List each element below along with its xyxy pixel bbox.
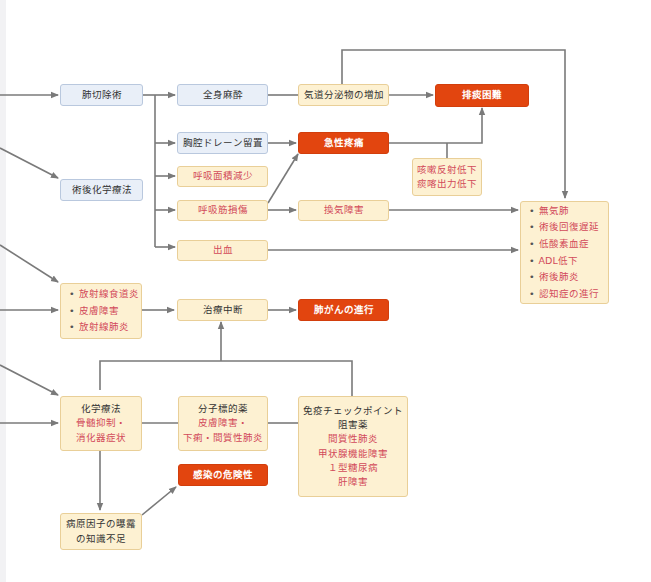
node-immune-checkpoint: 免疫チェックポイント 阻害薬 間質性肺炎 甲状腺機能障害 １型糖尿病 肝障害 (298, 396, 408, 497)
list-item: 低酸素血症 (529, 236, 599, 253)
node-resp-area-decrease: 呼吸面積減少 (177, 166, 268, 187)
node-lung-cancer-progression: 肺がんの進行 (298, 299, 389, 321)
node-resp-muscle-injury: 呼吸筋損傷 (177, 200, 268, 221)
targeted-effect: 皮膚障害・ (198, 416, 248, 430)
knowledge-line: の知識不足 (76, 532, 126, 546)
chemo-effect: 骨髄抑制・ (76, 416, 126, 430)
ici-title: 阻害薬 (338, 418, 368, 432)
node-complications: 無気肺 術後回復遅延 低酸素血症 ADL低下 術後肺炎 認知症の進行 (520, 201, 609, 304)
node-treatment-interruption: 治療中断 (177, 299, 268, 321)
chemo-effect: 消化器症状 (76, 431, 126, 445)
ici-title: 免疫チェックポイント (303, 404, 403, 418)
targeted-effect: 下痢・間質性肺炎 (183, 431, 263, 445)
node-sputum-difficulty: 排痰困難 (435, 84, 529, 107)
cough-line: 痰喀出力低下 (417, 177, 477, 191)
list-item: 術後肺炎 (529, 269, 599, 286)
node-chest-drain: 胸腔ドレーン留置 (177, 132, 268, 154)
list-item: 認知症の進行 (529, 286, 599, 303)
chemo-title: 化学療法 (81, 402, 121, 416)
cough-line: 咳嗽反射低下 (417, 163, 477, 177)
node-post-chemo: 術後化学療法 (60, 179, 143, 201)
knowledge-line: 病原因子の曝露 (66, 517, 136, 531)
node-chemotherapy: 化学療法 骨髄抑制・ 消化器症状 (60, 396, 142, 451)
node-radiation: 放射線食道炎 皮膚障害 放射線肺炎 (60, 283, 142, 339)
targeted-title: 分子標的薬 (198, 402, 248, 416)
node-ventilation-disorder: 換気障害 (298, 200, 389, 221)
node-acute-pain: 急性疼痛 (298, 132, 389, 154)
radiation-effects-list: 放射線食道炎 皮膚障害 放射線肺炎 (61, 286, 139, 336)
node-infection-risk: 感染の危険性 (178, 464, 268, 486)
node-lobectomy: 肺切除術 (60, 84, 143, 106)
list-item: 放射線肺炎 (69, 319, 139, 336)
complications-list: 無気肺 術後回復遅延 低酸素血症 ADL低下 術後肺炎 認知症の進行 (521, 203, 599, 303)
list-item: 無気肺 (529, 203, 599, 220)
node-bleeding: 出血 (177, 240, 268, 261)
list-item: ADL低下 (529, 253, 599, 270)
list-item: 放射線食道炎 (69, 286, 139, 303)
node-airway-secretion: 気道分泌物の増加 (298, 84, 389, 106)
node-cough-reflex: 咳嗽反射低下 痰喀出力低下 (412, 158, 482, 196)
ici-effect: 肝障害 (338, 475, 368, 489)
list-item: 皮膚障害 (69, 303, 139, 320)
node-general-anesthesia: 全身麻酔 (177, 84, 268, 106)
list-item: 術後回復遅延 (529, 219, 599, 236)
node-knowledge-deficit: 病原因子の曝露 の知識不足 (60, 513, 142, 550)
ici-effect: 間質性肺炎 (328, 432, 378, 446)
node-targeted-therapy: 分子標的薬 皮膚障害・ 下痢・間質性肺炎 (178, 396, 268, 451)
ici-effect: １型糖尿病 (328, 461, 378, 475)
ici-effect: 甲状腺機能障害 (318, 447, 388, 461)
